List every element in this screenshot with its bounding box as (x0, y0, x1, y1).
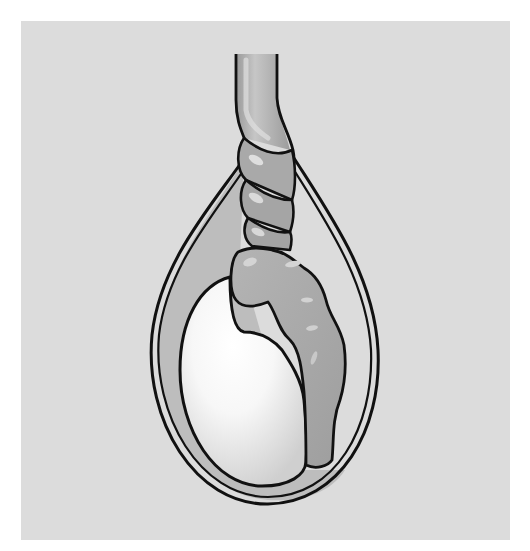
anatomy-illustration (0, 0, 530, 551)
spermatic-cord (236, 54, 295, 250)
epididymis-highlight-3 (301, 298, 313, 303)
